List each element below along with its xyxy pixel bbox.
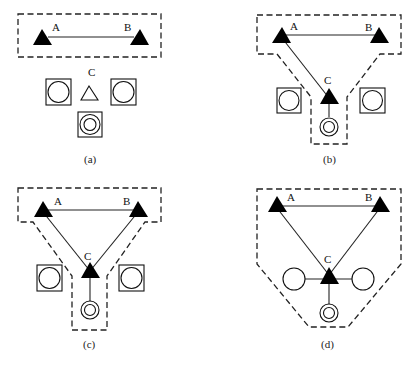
circle-icon bbox=[48, 82, 69, 103]
node-label-b: B bbox=[124, 21, 131, 33]
link-a-c bbox=[43, 212, 90, 271]
node-label-b: B bbox=[123, 195, 130, 207]
circle-node-right-icon bbox=[352, 268, 374, 290]
caption-a: (a) bbox=[84, 153, 97, 166]
node-label-a: A bbox=[287, 191, 295, 203]
caption-c: (c) bbox=[83, 338, 96, 351]
node-label-c: C bbox=[88, 66, 95, 78]
circle-icon bbox=[363, 91, 383, 111]
panel-a: A B C (a) bbox=[18, 14, 161, 166]
filled-triangle-icon-a bbox=[34, 201, 53, 217]
link-b-c bbox=[90, 212, 138, 271]
panel-b: A B C (b) bbox=[257, 15, 401, 166]
double-circle-inner-icon bbox=[85, 305, 96, 316]
filled-triangle-icon-b bbox=[129, 201, 148, 217]
node-label-a: A bbox=[290, 20, 298, 32]
filled-triangle-icon-b bbox=[371, 196, 390, 212]
node-label-a: A bbox=[54, 195, 62, 207]
panel-c: A B C (c) bbox=[18, 188, 161, 351]
double-circle-inner-icon bbox=[84, 119, 96, 131]
double-circle-inner-icon bbox=[324, 308, 335, 319]
caption-b: (b) bbox=[323, 153, 336, 166]
node-label-a: A bbox=[52, 21, 60, 33]
link-b-c bbox=[329, 208, 380, 275]
circle-icon bbox=[113, 82, 134, 103]
filled-triangle-icon-c bbox=[320, 267, 339, 284]
node-label-c: C bbox=[324, 253, 331, 265]
node-label-c: C bbox=[324, 74, 331, 86]
circle-icon bbox=[39, 268, 60, 289]
node-label-c: C bbox=[84, 250, 91, 262]
node-label-b: B bbox=[365, 191, 372, 203]
circle-node-left-icon bbox=[283, 268, 305, 290]
node-label-b: B bbox=[365, 21, 372, 33]
filled-triangle-icon-a bbox=[268, 196, 287, 212]
circle-icon bbox=[279, 91, 299, 111]
caption-d: (d) bbox=[321, 338, 334, 351]
link-a-c bbox=[277, 208, 329, 275]
figure-canvas: A B C (a) A B C (b) bbox=[0, 0, 414, 365]
filled-triangle-icon-c bbox=[81, 262, 100, 278]
hollow-triangle-icon-c bbox=[81, 86, 98, 100]
panel-d: A B C (d) bbox=[257, 189, 401, 351]
circle-icon bbox=[121, 268, 142, 289]
double-circle-inner-icon bbox=[324, 122, 335, 133]
